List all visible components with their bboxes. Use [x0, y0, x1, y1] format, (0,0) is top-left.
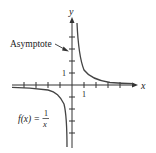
y-tick-label-1: 1 — [62, 69, 66, 78]
function-label: f(x) = 1 x — [18, 109, 49, 129]
annotation-arrow-icon — [62, 47, 69, 52]
reciprocal-function-graph: y x Asymptote 1 1 f(x) = 1 x — [0, 0, 156, 153]
curve-right-branch — [77, 23, 134, 84]
asymptote-annotation — [55, 44, 69, 52]
y-axis-label: y — [68, 6, 74, 17]
y-axis — [69, 17, 75, 148]
x-tick-label-1: 1 — [82, 90, 86, 99]
function-numerator: 1 — [44, 109, 48, 118]
y-axis-arrow-icon — [70, 17, 75, 23]
asymptote-label: Asymptote — [10, 39, 52, 49]
function-denominator: x — [42, 119, 47, 129]
function-lhs: f(x) = — [18, 114, 40, 125]
x-axis-label: x — [140, 80, 146, 91]
